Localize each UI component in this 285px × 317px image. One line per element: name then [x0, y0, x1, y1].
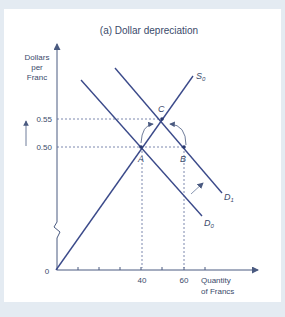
supply-curve-s0 — [56, 76, 193, 270]
y-tick-055: 0.55 — [36, 115, 52, 124]
x-axis-label-1: Quantity — [201, 276, 231, 285]
demand-shift-arrow-icon — [191, 183, 203, 194]
x-axis — [57, 267, 258, 270]
origin-label: 0 — [45, 267, 50, 276]
y-axis-label-1: Dollars — [25, 53, 50, 62]
s0-label: S0 — [196, 71, 206, 82]
d1-label: D1 — [224, 192, 234, 203]
y-axis-label-2: per — [31, 63, 43, 72]
point-a-label: A — [137, 154, 144, 164]
y-axis-label-3: Franc — [27, 73, 47, 82]
y-tick-050: 0.50 — [36, 143, 52, 152]
chart: (a) Dollar depreciation Dollars per Fran… — [0, 0, 285, 317]
demand-curve-d1 — [115, 68, 222, 193]
y-axis — [54, 44, 60, 270]
chart-title: (a) Dollar depreciation — [100, 25, 198, 36]
guide-lines — [57, 119, 184, 268]
point-c — [160, 117, 164, 121]
point-a — [139, 145, 143, 149]
point-c-label: C — [158, 104, 165, 114]
x-tick-40: 40 — [138, 276, 147, 285]
point-b — [182, 145, 186, 149]
d0-label: D0 — [204, 218, 215, 229]
x-axis-label-2: of Francs — [201, 287, 234, 296]
point-b-label: B — [180, 154, 186, 164]
x-tick-60: 60 — [180, 276, 189, 285]
